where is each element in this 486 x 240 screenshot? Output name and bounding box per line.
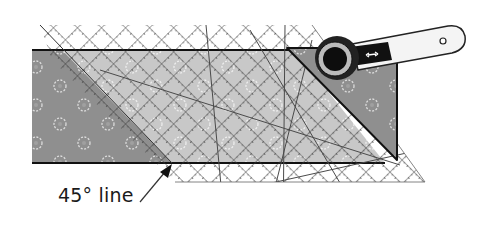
cutter-blade-center <box>323 47 347 71</box>
45-degree-line-label: 45° line <box>58 184 134 206</box>
45-degree-line-arrow <box>140 164 172 202</box>
handle-hole-icon <box>440 38 446 44</box>
